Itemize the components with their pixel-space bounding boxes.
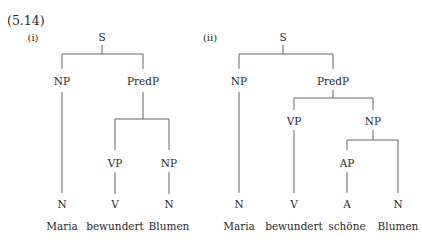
node-v: V (110, 198, 119, 210)
node-np: NP (231, 75, 247, 87)
node-vp: VP (286, 115, 302, 127)
node-predp: PredP (127, 75, 159, 87)
node-predp: PredP (317, 75, 349, 87)
node-n2: N (164, 198, 173, 210)
word: schöne (328, 220, 365, 232)
node-np2: NP (161, 157, 177, 169)
node-np: NP (54, 75, 70, 87)
word: Maria (46, 220, 78, 232)
node-ap: AP (339, 157, 355, 169)
node-s: S (279, 31, 286, 43)
node-v: V (289, 198, 298, 210)
tree-ii: (ii) S NP PredP VP NP AP N V A N Maria b… (203, 31, 419, 232)
example-number: (5.14) (7, 13, 45, 28)
word: bewundert (86, 220, 144, 232)
word: Maria (223, 220, 255, 232)
word: Blumen (149, 220, 190, 232)
node-s: S (98, 31, 105, 43)
node-n2: N (393, 198, 402, 210)
word: bewundert (265, 220, 323, 232)
node-n1: N (234, 198, 243, 210)
node-vp: VP (107, 157, 123, 169)
tree-ii-label: (ii) (203, 32, 217, 43)
tree-i-label: (i) (27, 32, 38, 43)
syntax-tree-diagram: (5.14) (i) S NP PredP VP NP N V N Maria … (0, 0, 422, 246)
tree-i: (i) S NP PredP VP NP N V N Maria bewunde… (27, 31, 189, 232)
node-a: A (342, 198, 351, 210)
node-np2: NP (365, 115, 381, 127)
node-n1: N (57, 198, 66, 210)
word: Blumen (378, 220, 419, 232)
